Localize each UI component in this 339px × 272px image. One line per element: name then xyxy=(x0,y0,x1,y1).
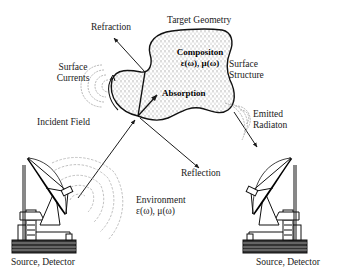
incident-field-label: Incident Field xyxy=(37,117,90,128)
composition-title: Compositon xyxy=(172,47,228,58)
composition-params: ε(ω), μ(ω) xyxy=(172,58,228,69)
right-antenna-icon xyxy=(243,158,307,253)
emitted-radiation-label: Emitted Radiaton xyxy=(253,109,287,131)
scattering-diagram xyxy=(0,0,339,272)
surface-currents-line1: Surface xyxy=(53,62,93,73)
absorption-label: Absorption xyxy=(162,88,206,99)
reflection-label: Reflection xyxy=(181,168,221,179)
reflection-arrow xyxy=(140,118,199,168)
left-antenna-label: Source, Detector xyxy=(11,257,75,268)
environment-line1: Environment xyxy=(136,195,186,206)
surface-structure-label: Surface Structure xyxy=(229,59,264,81)
refraction-label: Refraction xyxy=(91,22,131,33)
target-geometry-label: Target Geometry xyxy=(167,15,231,26)
refraction-arrow xyxy=(114,38,145,72)
emitted-radiation-line2: Radiaton xyxy=(253,120,287,131)
environment-label: Environment ε(ω), μ(ω) xyxy=(136,195,186,217)
composition-label: Compositon ε(ω), μ(ω) xyxy=(172,47,228,69)
right-antenna-label: Source, Detector xyxy=(256,257,320,268)
surface-structure-line2: Structure xyxy=(229,70,264,81)
left-antenna-icon xyxy=(12,158,76,253)
emitted-radiation-line1: Emitted xyxy=(253,109,287,120)
target-geometry-shape xyxy=(111,29,234,120)
incident-field-arrow xyxy=(78,120,135,198)
surface-currents-label: Surface Currents xyxy=(53,62,93,84)
surface-structure-line1: Surface xyxy=(229,59,264,70)
surface-currents-line2: Currents xyxy=(53,73,93,84)
environment-line2: ε(ω), μ(ω) xyxy=(136,206,186,217)
